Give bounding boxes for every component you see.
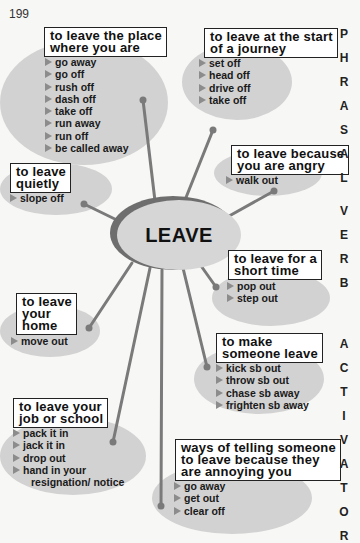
arrow-icon [226,176,233,184]
arrow-icon [45,95,52,103]
list-item: go off [45,68,129,80]
list-item: jack it in [13,439,124,451]
group-list-job-school: pack it in jack it in drop out hand in y… [13,427,124,488]
list-item: step out [227,292,278,304]
side-letter: T [337,385,351,399]
side-letter: A [337,457,351,471]
group-title-place: to leave the place where you are [44,27,167,57]
side-letter: A [337,337,351,351]
list-item: take off [45,105,129,117]
list-item: dash off [45,93,129,105]
side-letter: A [337,147,351,161]
title-line: of a journey [210,43,333,55]
arrow-icon [45,83,52,91]
side-letter: O [337,505,351,519]
group-title-job-school: to leave your job or school [13,398,108,428]
group-title-quietly: to leave quietly [10,163,71,193]
arrow-icon [199,84,206,92]
list-item: drop out [13,452,124,464]
list-item: pop out [227,280,278,292]
arrow-icon [45,58,52,66]
arrow-icon [174,507,181,515]
arrow-icon [227,282,234,290]
arrow-icon [199,71,206,79]
list-item: move out [11,335,68,347]
side-letter: V [337,433,351,447]
list-item: hand in yourresignation/ notice [13,464,124,489]
list-item: set off [199,57,250,69]
group-list-angry: walk out [226,174,278,186]
title-line: someone leave [222,348,318,360]
list-item: pack it in [13,427,124,439]
group-title-annoying: ways of telling someone to leave because… [175,439,341,481]
arrow-icon [13,454,20,462]
arrow-icon [45,70,52,78]
list-item: run off [45,130,129,142]
group-title-home: to leave your home [16,293,77,335]
side-letter: A [337,99,351,113]
side-letter: S [337,123,351,137]
group-list-annoying: go away get out clear off [174,480,225,517]
side-letter: R [337,252,351,266]
group-list-place: go away go off rush off dash off take of… [45,56,129,154]
center-node: LEAVE [117,200,241,270]
arrow-icon [45,132,52,140]
list-item: get out [174,492,225,504]
list-item: clear off [174,505,225,517]
title-line: where you are [50,42,162,54]
list-item: go away [174,480,225,492]
group-list-journey: set off head off drive off take off [199,57,250,106]
arrow-icon [216,401,223,409]
arrow-icon [216,364,223,372]
center-label: LEAVE [145,224,213,247]
arrow-icon [11,337,18,345]
arrow-icon [216,389,223,397]
side-letter: T [337,481,351,495]
side-letter: R [337,529,351,543]
group-list-home: move out [11,335,68,347]
side-letter: L [337,171,351,185]
side-letter: H [337,51,351,65]
list-item: be called away [45,142,129,154]
group-title-journey: to leave at the start of a journey [204,28,338,58]
list-item: frighten sb away [216,399,309,411]
list-item: run away [45,117,129,129]
arrow-icon [216,376,223,384]
arrow-icon [13,429,20,437]
title-line: you are angry [237,160,344,172]
list-item: walk out [226,174,278,186]
side-letter: V [337,204,351,218]
arrow-icon [199,96,206,104]
list-item: throw sb out [216,374,309,386]
group-list-quietly: slope off [10,192,64,204]
arrow-icon [10,194,17,202]
arrow-icon [13,466,20,474]
arrow-icon [45,107,52,115]
arrow-icon [45,144,52,152]
side-letter: C [337,361,351,375]
list-item: kick sb out [216,362,309,374]
title-line: short time [234,265,317,277]
side-letter: B [337,276,351,290]
list-item: go away [45,56,129,68]
arrow-icon [227,294,234,302]
side-letter: I [337,409,351,423]
group-title-short-time: to leave for a short time [228,250,322,280]
title-line: home [22,320,72,332]
group-list-make-leave: kick sb out throw sb out chase sb away f… [216,362,309,411]
list-item: slope off [10,192,64,204]
side-letter: E [337,228,351,242]
title-line: quietly [16,178,66,190]
arrow-icon [13,441,20,449]
group-title-angry: to leave because you are angry [231,145,349,175]
list-item: chase sb away [216,387,309,399]
list-item: take off [199,94,250,106]
arrow-icon [174,482,181,490]
list-item-continuation: resignation/ notice [23,476,124,488]
list-item: rush off [45,81,129,93]
arrow-icon [45,119,52,127]
list-item: head off [199,69,250,81]
side-letter: P [337,27,351,41]
arrow-icon [174,494,181,502]
side-letter: R [337,75,351,89]
